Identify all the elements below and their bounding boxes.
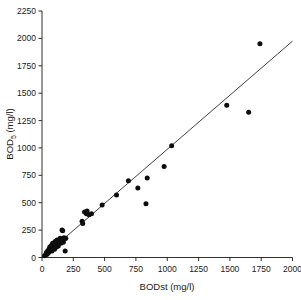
y-axis-title-unit: (mg/l)	[4, 108, 15, 135]
y-axis-tick-labels: 0 250 500 750 1000 1250 1500 1750 2000 2…	[17, 6, 36, 263]
data-point	[63, 236, 68, 241]
data-point	[60, 228, 65, 233]
data-point	[169, 143, 174, 148]
y-tick-label-0: 0	[31, 253, 36, 263]
y-tick-label-250: 250	[22, 225, 36, 235]
x-tick-label-1500: 1500	[220, 264, 239, 274]
x-axis-tick-labels: 0 250 500 750 1000 1250 1500 1750 2000	[40, 264, 301, 274]
y-tick-label-2250: 2250	[17, 6, 36, 16]
data-point	[89, 211, 94, 216]
scatter-points-group	[42, 41, 262, 258]
data-point	[162, 164, 167, 169]
regression-fit-line	[42, 41, 293, 257]
data-point	[114, 193, 119, 198]
y-tick-label-1500: 1500	[17, 88, 36, 98]
scatter-chart-figure: 0 250 500 750 1000 1250 1500 1750 2000 2…	[0, 0, 301, 300]
data-point	[257, 41, 262, 46]
x-axis-ticks	[42, 258, 293, 262]
y-axis-title-base: BOD	[4, 139, 15, 160]
x-tick-label-2000: 2000	[283, 264, 301, 274]
data-point	[145, 176, 150, 181]
y-tick-label-1250: 1250	[17, 116, 36, 126]
data-point	[143, 201, 148, 206]
data-point	[135, 185, 140, 190]
data-point	[80, 221, 85, 226]
x-tick-label-500: 500	[98, 264, 112, 274]
data-point	[126, 178, 131, 183]
data-point	[63, 248, 68, 253]
y-tick-label-1000: 1000	[17, 143, 36, 153]
data-point	[246, 110, 251, 115]
y-axis-ticks	[39, 11, 43, 258]
x-tick-label-250: 250	[66, 264, 80, 274]
x-tick-label-750: 750	[129, 264, 143, 274]
y-tick-label-2000: 2000	[17, 33, 36, 43]
y-tick-label-1750: 1750	[17, 61, 36, 71]
data-point	[224, 103, 229, 108]
x-tick-label-1250: 1250	[189, 264, 208, 274]
x-tick-label-0: 0	[40, 264, 45, 274]
x-axis-title: BODst (mg/l)	[140, 281, 195, 292]
x-tick-label-1750: 1750	[252, 264, 271, 274]
y-axis-title-text: BOD5 (mg/l)	[4, 108, 17, 159]
y-axis-title: BOD5 (mg/l)	[4, 108, 17, 159]
y-tick-label-750: 750	[22, 170, 36, 180]
data-point	[100, 202, 105, 207]
chart-canvas: 0 250 500 750 1000 1250 1500 1750 2000 2…	[0, 0, 301, 300]
x-tick-label-1000: 1000	[158, 264, 177, 274]
y-tick-label-500: 500	[22, 198, 36, 208]
